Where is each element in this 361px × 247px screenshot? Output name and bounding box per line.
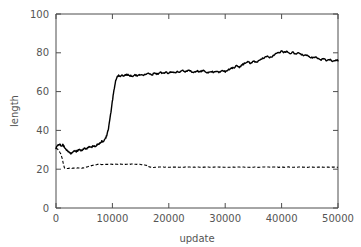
y-tick-label: 100	[30, 9, 49, 20]
x-axis-title: update	[179, 233, 214, 244]
chart-background	[0, 0, 361, 247]
y-tick-label: 80	[36, 47, 49, 58]
x-tick-label: 40000	[266, 213, 298, 224]
chart-figure: 020406080100 01000020000300004000050000 …	[0, 0, 361, 247]
x-tick-label: 30000	[209, 213, 241, 224]
y-tick-label: 40	[36, 125, 49, 136]
y-tick-label: 20	[36, 164, 49, 175]
y-axis-title: length	[9, 95, 20, 127]
x-tick-label: 50000	[322, 213, 354, 224]
x-tick-label: 10000	[96, 213, 128, 224]
y-tick-label: 0	[43, 203, 49, 214]
y-tick-label: 60	[36, 86, 49, 97]
x-tick-label: 20000	[153, 213, 185, 224]
line-chart-plot: 020406080100 01000020000300004000050000 …	[0, 0, 361, 247]
x-tick-label: 0	[53, 213, 59, 224]
